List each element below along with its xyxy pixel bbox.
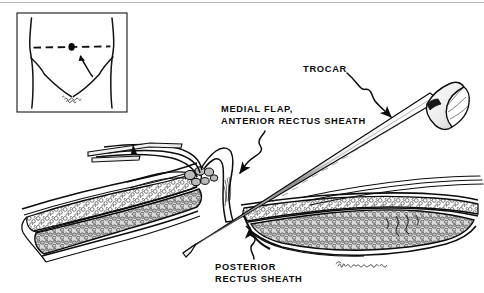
label-posterior-rectus-sheath: POSTERIORRECTUS SHEATH <box>215 262 302 285</box>
label-posterior-line1: POSTERIOR <box>215 262 276 272</box>
label-medial-flap-line2: ANTERIOR RECTUS SHEATH <box>221 116 366 126</box>
artist-signature <box>336 262 387 268</box>
trocar-handle <box>426 82 469 129</box>
label-posterior-line2: RECTUS SHEATH <box>215 274 302 284</box>
medial-flap-leader <box>240 131 265 173</box>
label-medial-flap-line1: MEDIAL FLAP, <box>221 104 293 114</box>
illustration-canvas <box>0 0 484 293</box>
label-medial-flap: MEDIAL FLAP,ANTERIOR RECTUS SHEATH <box>221 104 366 127</box>
right-abdominal-wall-section <box>241 193 478 256</box>
surgical-illustration-figure: TROCAR MEDIAL FLAP,ANTERIOR RECTUS SHEAT… <box>0 0 484 293</box>
label-trocar: TROCAR <box>303 64 347 76</box>
umbilicus-dot <box>68 43 74 51</box>
trocar-tip <box>183 244 196 257</box>
abdomen-orientation-inset <box>17 13 127 112</box>
